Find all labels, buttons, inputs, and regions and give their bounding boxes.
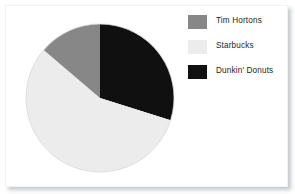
legend-item-dunkin-donuts[interactable]: Dunkin' Donuts [188, 59, 286, 84]
legend-item-tim-hortons[interactable]: Tim Hortons [188, 9, 286, 34]
chart-legend: Tim Hortons Starbucks Dunkin' Donuts [188, 9, 286, 84]
legend-item-starbucks[interactable]: Starbucks [188, 34, 286, 59]
legend-label-tim-hortons: Tim Hortons [216, 17, 262, 25]
legend-swatch-tim-hortons [188, 15, 207, 29]
pie-chart-figure: Tim Hortons Starbucks Dunkin' Donuts [0, 0, 295, 194]
legend-swatch-dunkin-donuts [188, 65, 207, 79]
plot-area: Tim Hortons Starbucks Dunkin' Donuts [0, 0, 295, 194]
legend-label-dunkin-donuts: Dunkin' Donuts [216, 67, 273, 75]
pie-slices [26, 24, 174, 172]
legend-swatch-starbucks [188, 40, 207, 54]
pie-chart-graphic [18, 16, 182, 180]
legend-label-starbucks: Starbucks [216, 42, 254, 50]
